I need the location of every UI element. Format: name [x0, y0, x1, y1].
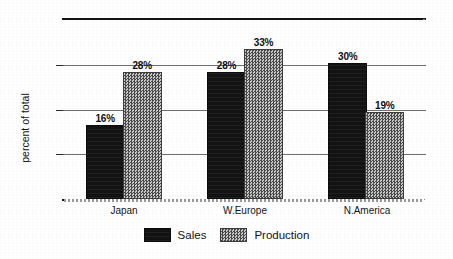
y-tick-10 [56, 154, 63, 155]
y-tick-30 [56, 65, 63, 66]
bar-value-label: 33% [254, 37, 273, 48]
legend-item-production: Production [220, 228, 309, 242]
bar-value-label: 19% [375, 100, 394, 111]
legend-item-sales: Sales [144, 228, 207, 242]
bar-value-label: 16% [95, 113, 114, 124]
legend-swatch-sales-icon [144, 228, 171, 242]
legend-swatch-production-icon [220, 228, 247, 242]
bar-namerica-production: 19% [365, 112, 404, 199]
bar-value-label: 28% [217, 60, 236, 71]
bar-japan-sales: 16% [86, 125, 125, 199]
bar-weurope-production: 33% [244, 49, 283, 199]
x-axis-label-japan: Japan [110, 205, 137, 216]
bar-value-label: 30% [338, 51, 357, 62]
bar-value-label: 28% [132, 60, 151, 71]
plot-bottom-border [64, 199, 424, 202]
bar-chart-figure: percent of total 16% 28% 28% 33% [0, 0, 453, 259]
x-axis-label-weurope: W.Europe [223, 205, 267, 216]
legend-label-production: Production [254, 229, 309, 241]
bar-namerica-sales: 30% [328, 63, 367, 199]
plot-area: 16% 28% 28% 33% 30% 19% [62, 20, 426, 199]
x-axis-label-namerica: N.America [344, 205, 391, 216]
y-tick-20 [56, 110, 63, 111]
legend-label-sales: Sales [178, 229, 207, 241]
bar-weurope-sales: 28% [207, 72, 246, 199]
y-axis-title: percent of total [16, 62, 34, 194]
y-axis-title-text: percent of total [19, 93, 31, 162]
bar-japan-production: 28% [123, 72, 162, 199]
chart-legend: Sales Production [0, 228, 453, 242]
